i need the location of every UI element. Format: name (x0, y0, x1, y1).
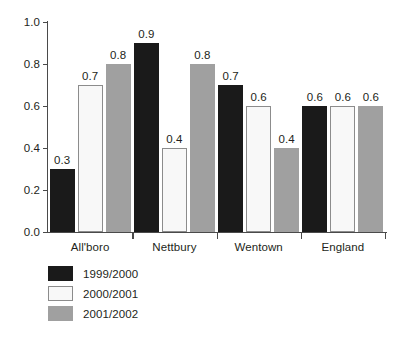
y-tick-label: 0.4 (24, 142, 40, 154)
y-tick-label: 1.0 (24, 16, 40, 28)
bar-value-label: 0.4 (166, 133, 182, 145)
bar-Nettbury-series1 (162, 148, 187, 232)
category-label-England: England (321, 241, 364, 253)
category-label-Allboro: All'boro (71, 241, 110, 253)
bar-Nettbury-series2 (190, 64, 215, 232)
legend-swatch (48, 306, 73, 321)
x-tick-mark (301, 233, 302, 239)
bar-value-label: 0.6 (250, 91, 266, 103)
y-tick-mark (43, 106, 48, 107)
y-tick-mark (43, 148, 48, 149)
legend-swatch (48, 286, 73, 301)
bar-Nettbury-series0 (134, 43, 159, 232)
bar-England-series1 (330, 106, 355, 232)
legend-label: 2000/2001 (83, 288, 138, 300)
bar-Allboro-series0 (50, 169, 75, 232)
x-tick-mark (132, 233, 133, 239)
bar-Wentown-series0 (218, 85, 243, 232)
bar-value-label: 0.7 (82, 70, 98, 82)
y-tick-label: 0.8 (24, 58, 40, 70)
bar-England-series2 (358, 106, 383, 232)
bar-Allboro-series1 (78, 85, 103, 232)
bar-value-label: 0.8 (110, 49, 126, 61)
bar-Wentown-series2 (274, 148, 299, 232)
y-tick-mark (43, 22, 48, 23)
bar-chart-figure: 0.00.20.40.60.81.0 0.30.70.80.90.40.80.7… (0, 0, 412, 346)
bar-England-series0 (302, 106, 327, 232)
category-label-Nettbury: Nettbury (152, 241, 196, 253)
legend-label: 2001/2002 (83, 308, 138, 320)
legend-item-1999-2000: 1999/2000 (48, 266, 138, 281)
bar-value-label: 0.3 (54, 154, 70, 166)
bar-value-label: 0.4 (278, 133, 294, 145)
y-tick-label: 0.6 (24, 100, 40, 112)
bar-value-label: 0.9 (138, 28, 154, 40)
legend-item-2001-2002: 2001/2002 (48, 306, 138, 321)
y-tick-mark (43, 232, 48, 233)
bar-value-label: 0.7 (222, 70, 238, 82)
x-tick-mark (385, 233, 386, 239)
y-tick-label: 0.2 (24, 184, 40, 196)
y-tick-label: 0.0 (24, 226, 40, 238)
bar-Wentown-series1 (246, 106, 271, 232)
bar-value-label: 0.6 (363, 91, 379, 103)
plot-area: 0.00.20.40.60.81.0 (48, 22, 385, 232)
legend-swatch (48, 266, 73, 281)
bar-value-label: 0.8 (194, 49, 210, 61)
legend-label: 1999/2000 (83, 268, 138, 280)
bar-value-label: 0.6 (335, 91, 351, 103)
category-label-Wentown: Wentown (234, 241, 282, 253)
y-tick-mark (43, 64, 48, 65)
legend-item-2000-2001: 2000/2001 (48, 286, 138, 301)
bar-Allboro-series2 (106, 64, 131, 232)
x-tick-mark (217, 233, 218, 239)
bar-value-label: 0.6 (307, 91, 323, 103)
y-tick-mark (43, 190, 48, 191)
chart-legend: 1999/20002000/20012001/2002 (48, 266, 138, 326)
